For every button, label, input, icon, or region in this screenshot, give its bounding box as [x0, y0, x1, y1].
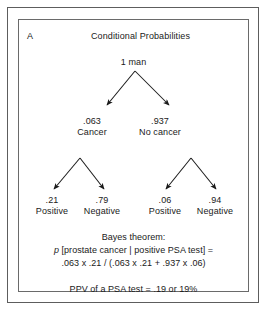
tree-node-no-cancer-negative-label: Negative — [188, 206, 242, 217]
bayes-formula-condition: [prostate cancer | positive PSA test] = — [59, 245, 213, 255]
bayes-formula-heading: Bayes theorem: — [18, 231, 249, 244]
tree-node-no-cancer-value: .937 — [122, 116, 198, 127]
tree-node-cancer-positive-label: Positive — [25, 206, 79, 217]
page-title: Conditional Probabilities — [18, 31, 249, 41]
tree-node-root-label: 1 man — [18, 57, 249, 68]
figure-content: A Conditional Probabilities 1 man — [18, 19, 249, 292]
tree-node-root: 1 man — [18, 57, 249, 68]
tree-node-no-cancer-positive-value: .06 — [138, 195, 192, 206]
tree-node-cancer-negative-label: Negative — [75, 206, 129, 217]
bayes-formula-expression-line2: .063 x .21 / (.063 x .21 + .937 x .06) — [18, 257, 249, 270]
tree-node-no-cancer: .937 No cancer — [122, 116, 198, 138]
tree-node-no-cancer-negative: .94 Negative — [188, 195, 242, 217]
tree-node-no-cancer-negative-value: .94 — [188, 195, 242, 206]
tree-node-cancer-negative: .79 Negative — [75, 195, 129, 217]
tree-node-cancer-label: Cancer — [62, 127, 122, 138]
ppv-result: PPV of a PSA test = .19 or 19% — [18, 283, 249, 296]
arrow-no-cancer-to-negative — [191, 158, 216, 189]
tree-node-cancer-positive: .21 Positive — [25, 195, 79, 217]
tree-node-cancer-positive-value: .21 — [25, 195, 79, 206]
tree-node-cancer-negative-value: .79 — [75, 195, 129, 206]
tree-node-no-cancer-positive-label: Positive — [138, 206, 192, 217]
tree-node-cancer-value: .063 — [62, 116, 122, 127]
arrow-root-to-cancer — [107, 71, 135, 105]
arrow-cancer-to-negative — [80, 158, 104, 189]
arrow-cancer-to-positive — [54, 158, 80, 189]
arrow-no-cancer-to-positive — [166, 158, 191, 189]
bayes-formula-expression-line1: p [prostate cancer | positive PSA test] … — [18, 244, 249, 257]
figure-root: A Conditional Probabilities 1 man — [0, 0, 268, 312]
tree-node-cancer: .063 Cancer — [62, 116, 122, 138]
arrow-root-to-no-cancer — [135, 71, 169, 105]
tree-node-no-cancer-label: No cancer — [122, 127, 198, 138]
tree-node-no-cancer-positive: .06 Positive — [138, 195, 192, 217]
bayes-formula-block: Bayes theorem: p [prostate cancer | posi… — [18, 231, 249, 296]
